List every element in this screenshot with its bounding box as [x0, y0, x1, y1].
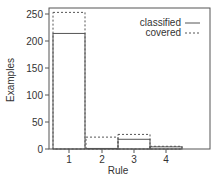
bar-covered-3: [118, 134, 150, 149]
x-tick-label: 3: [131, 154, 137, 165]
y-tick-label: 0: [37, 144, 43, 155]
bar-classified-1: [53, 33, 85, 149]
y-tick-label: 200: [26, 36, 43, 47]
x-tick-label: 1: [66, 154, 72, 165]
x-tick-label: 4: [163, 154, 169, 165]
y-tick-label: 150: [26, 63, 43, 74]
plot-frame: [49, 8, 210, 149]
x-axis-label: Rule: [108, 165, 129, 176]
y-axis-label: Examples: [5, 58, 16, 102]
legend-label-covered: covered: [145, 27, 181, 38]
y-tick-label: 100: [26, 90, 43, 101]
bar-covered-1: [53, 12, 85, 149]
legend: classified covered: [140, 17, 200, 38]
bar-covered-2: [86, 137, 118, 149]
bar-chart: 050100150200250 1234 Rule Examples class…: [0, 0, 219, 184]
x-axis: 1234: [66, 149, 169, 165]
y-tick-label: 250: [26, 9, 43, 20]
x-tick-label: 2: [99, 154, 105, 165]
bar-classified-3: [118, 139, 150, 149]
y-tick-label: 50: [32, 117, 44, 128]
y-axis: 050100150200250: [26, 9, 49, 155]
